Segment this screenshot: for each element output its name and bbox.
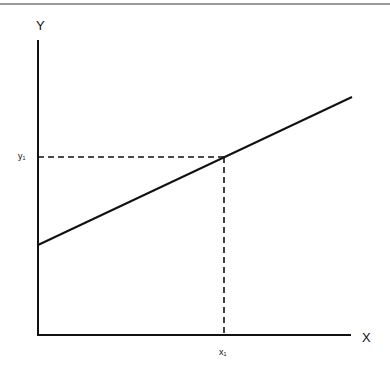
linear-graph — [0, 0, 390, 371]
linear-function-line — [38, 97, 352, 245]
y1-label: y₁ — [18, 151, 26, 161]
y-axis-label: Y — [36, 18, 45, 33]
x1-label: x₁ — [219, 347, 227, 357]
x-axis-label: X — [362, 330, 371, 345]
